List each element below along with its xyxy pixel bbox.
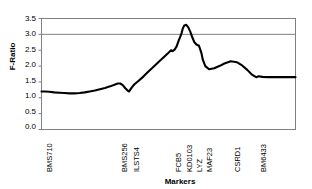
x-tick-label: KD0103 bbox=[186, 145, 194, 172]
x-tick-label: BM6433 bbox=[260, 144, 268, 172]
chart-container: F-Ratio 0.0 0.5 1.0 1.5 2.0 2.5 3.0 3.5 … bbox=[0, 0, 312, 189]
x-tick-label: BMS710 bbox=[46, 143, 54, 172]
x-axis-title: Markers bbox=[150, 177, 210, 186]
x-tick-label: MAF23 bbox=[206, 148, 214, 172]
x-tick-label: BMS256 bbox=[121, 143, 129, 172]
x-tick-label: ILSTS4 bbox=[133, 147, 141, 172]
plot-frame bbox=[42, 19, 296, 130]
x-tick-label: FCB5 bbox=[175, 153, 183, 172]
x-tick-label: LYZ bbox=[196, 159, 204, 172]
x-tick-label: CSRD1 bbox=[234, 147, 242, 172]
